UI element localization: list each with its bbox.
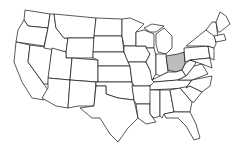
state-kansas [98, 66, 132, 82]
state-wisconsin [136, 30, 154, 48]
state-new-mexico [68, 80, 96, 108]
state-florida [164, 112, 200, 140]
state-maine [216, 12, 230, 32]
us-map [0, 0, 241, 158]
state-south-dakota [93, 36, 124, 52]
state-colorado [70, 58, 98, 82]
state-michigan [156, 28, 172, 54]
state-arkansas [132, 86, 152, 104]
state-mississippi [150, 90, 160, 118]
states [14, 10, 230, 142]
state-nebraska [93, 52, 130, 66]
state-north-dakota [94, 18, 122, 36]
state-wyoming [66, 38, 94, 58]
